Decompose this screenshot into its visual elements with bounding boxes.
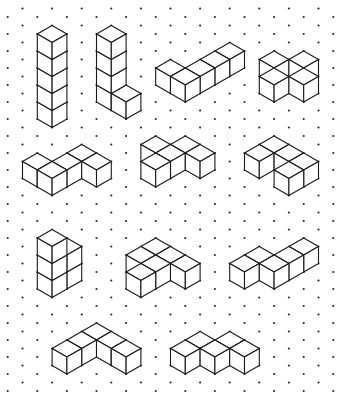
grid-dot xyxy=(21,194,23,196)
grid-dot xyxy=(51,381,53,383)
grid-dot xyxy=(155,373,157,375)
grid-dot xyxy=(199,109,201,111)
grid-dot xyxy=(229,24,231,26)
figure-tower-five xyxy=(37,26,67,128)
grid-dot xyxy=(7,288,9,290)
grid-dot xyxy=(214,33,216,35)
grid-dot xyxy=(214,135,216,137)
figure-column-pair xyxy=(37,230,81,298)
grid-dot xyxy=(303,305,305,307)
grid-dot xyxy=(7,169,9,171)
grid-dot xyxy=(303,356,305,358)
grid-dot xyxy=(36,339,38,341)
grid-dot xyxy=(110,296,112,298)
grid-dot xyxy=(317,330,319,332)
grid-dot xyxy=(7,271,9,273)
grid-dot xyxy=(229,313,231,315)
grid-dot xyxy=(7,237,9,239)
grid-dot xyxy=(81,194,83,196)
grid-dot xyxy=(81,381,83,383)
grid-dot xyxy=(243,305,245,307)
grid-dot xyxy=(184,118,186,120)
grid-dot xyxy=(66,322,68,324)
grid-dot xyxy=(140,381,142,383)
grid-dot xyxy=(288,364,290,366)
grid-dot xyxy=(273,118,275,120)
figure-v-shape-flat xyxy=(52,323,141,374)
grid-dot xyxy=(110,313,112,315)
grid-dot xyxy=(140,211,142,213)
grid-dot xyxy=(169,109,171,111)
grid-dot xyxy=(36,373,38,375)
grid-dot xyxy=(95,288,97,290)
grid-dot xyxy=(199,245,201,247)
grid-dot xyxy=(21,41,23,43)
grid-dot xyxy=(214,118,216,120)
grid-dot xyxy=(229,381,231,383)
grid-dot xyxy=(169,41,171,43)
grid-dot xyxy=(303,390,305,392)
grid-dot xyxy=(303,322,305,324)
grid-dot xyxy=(332,169,334,171)
grid-dot xyxy=(303,288,305,290)
grid-dot xyxy=(169,228,171,230)
grid-dot xyxy=(21,296,23,298)
grid-dot xyxy=(7,390,9,392)
grid-dot xyxy=(140,24,142,26)
grid-dot xyxy=(258,313,260,315)
grid-dot xyxy=(273,373,275,375)
grid-dot xyxy=(66,390,68,392)
grid-dot xyxy=(243,203,245,205)
grid-dot xyxy=(332,84,334,86)
grid-dot xyxy=(288,313,290,315)
grid-dot xyxy=(125,305,127,307)
grid-dot xyxy=(288,24,290,26)
grid-dot xyxy=(229,296,231,298)
grid-dot xyxy=(332,288,334,290)
grid-dot xyxy=(155,33,157,35)
grid-dot xyxy=(21,24,23,26)
grid-dot xyxy=(125,135,127,137)
grid-dot xyxy=(110,245,112,247)
grid-dot xyxy=(303,33,305,35)
grid-dot xyxy=(332,67,334,69)
grid-dot xyxy=(21,279,23,281)
grid-dot xyxy=(95,254,97,256)
isometric-dot-sheet xyxy=(0,0,342,408)
grid-dot xyxy=(332,322,334,324)
figure-t-cluster-flat xyxy=(141,136,215,187)
grid-dot xyxy=(110,126,112,128)
grid-dot xyxy=(288,381,290,383)
grid-dot xyxy=(303,339,305,341)
grid-dot xyxy=(288,296,290,298)
grid-dot xyxy=(273,237,275,239)
grid-dot xyxy=(36,203,38,205)
grid-dot xyxy=(155,305,157,307)
grid-dot xyxy=(229,109,231,111)
grid-dot xyxy=(125,203,127,205)
grid-dot xyxy=(95,16,97,18)
grid-dot xyxy=(273,33,275,35)
grid-dot xyxy=(21,7,23,9)
grid-dot xyxy=(36,16,38,18)
grid-dot xyxy=(36,220,38,222)
grid-dot xyxy=(303,220,305,222)
grid-dot xyxy=(51,211,53,213)
grid-dot xyxy=(7,339,9,341)
grid-dot xyxy=(169,194,171,196)
grid-dot xyxy=(229,143,231,145)
grid-dot xyxy=(214,186,216,188)
grid-dot xyxy=(36,356,38,358)
grid-dot xyxy=(7,254,9,256)
grid-dot xyxy=(317,194,319,196)
grid-dot xyxy=(21,211,23,213)
grid-dot xyxy=(36,305,38,307)
grid-dot xyxy=(229,245,231,247)
grid-dot xyxy=(243,101,245,103)
grid-dot xyxy=(258,296,260,298)
figure-w-row-flat xyxy=(171,332,260,375)
grid-dot xyxy=(169,313,171,315)
grid-dot xyxy=(110,381,112,383)
grid-dot xyxy=(7,67,9,69)
grid-dot xyxy=(110,7,112,9)
